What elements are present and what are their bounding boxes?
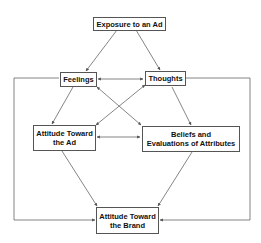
node-label-line2: Evaluations of Attributes (147, 139, 235, 148)
edge-feelings-attitude-ad (52, 87, 73, 124)
node-label: Feelings (63, 75, 93, 84)
node-feelings: Feelings (60, 72, 97, 87)
node-label-line1: Attitude Toward (99, 212, 156, 221)
node-label: Thoughts (148, 74, 182, 83)
node-label-line2: the Ad (53, 138, 76, 147)
edge-beliefs-brand (158, 152, 192, 206)
node-attitude-toward-ad: Attitude Toward the Ad (33, 125, 96, 151)
edge-attitude-ad-brand (62, 151, 97, 206)
edge-thoughts-beliefs (172, 87, 191, 125)
node-beliefs-evaluations: Beliefs and Evaluations of Attributes (142, 126, 240, 152)
node-label-line2: the Brand (110, 221, 145, 230)
node-thoughts: Thoughts (145, 71, 186, 86)
edge-exposure-thoughts (136, 30, 160, 70)
node-attitude-toward-brand: Attitude Toward the Brand (96, 207, 159, 234)
node-label-line1: Beliefs and (171, 130, 211, 139)
edge-exposure-feelings (86, 30, 117, 71)
node-label: Exposure to an Ad (97, 20, 163, 29)
edge-thoughts-attitude-ad (96, 85, 145, 125)
node-label-line1: Attitude Toward (36, 129, 93, 138)
node-exposure-to-ad: Exposure to an Ad (93, 17, 166, 31)
